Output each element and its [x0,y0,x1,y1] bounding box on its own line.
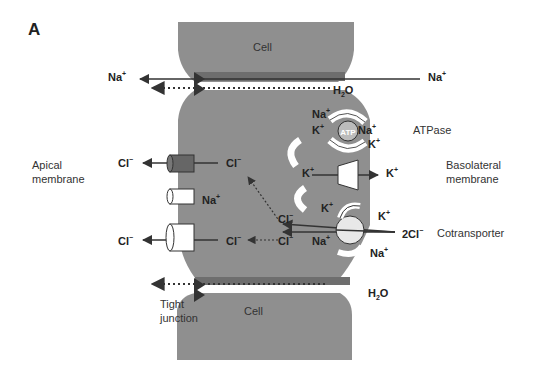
cl-cotrans-2: Cl− [278,234,293,247]
na-channel-label: Na+ [202,193,220,206]
atpase-k-in: K+ [312,123,324,136]
cl-channel-white-icon [166,224,194,251]
cl-cotrans-1: Cl− [278,212,293,225]
atp-label: ATP [340,128,356,137]
cl-apical-in-1: Cl− [226,156,241,169]
atpase-na-in: Na+ [312,107,330,120]
h2o-top-label: H2O [333,84,353,98]
cl-apical-out-2: Cl− [118,234,133,247]
epithelial-transport-diagram: ATP [0,0,536,379]
cotrans-na-out: Na+ [370,246,388,259]
tight-junction-label: Tightjunction [160,297,198,325]
cl-channel-dark-icon [167,155,194,172]
basolateral-membrane-label: Basolateralmembrane [446,158,501,186]
apical-membrane-label: Apicalmembrane [32,158,85,186]
cotrans-na-in: Na+ [312,234,330,247]
top-cell-label: Cell [253,41,272,53]
bottom-cell-label: Cell [244,305,263,317]
cotrans-2cl: 2Cl− [402,227,423,240]
atpase-na-out: Na+ [358,123,376,136]
cl-apical-in-2: Cl− [226,234,241,247]
k-channel-in: K+ [302,166,314,179]
panel-label: A [28,20,40,40]
k-recycle: K+ [321,201,333,214]
atpase-label: ATPase [413,124,451,136]
cotransporter-label: Cotransporter [437,227,504,239]
k-channel-out: K+ [386,166,398,179]
na-top-right-label: Na+ [428,70,446,83]
cl-apical-out-1: Cl− [118,156,133,169]
bottom-cell [177,293,352,360]
atpase-k-out: K+ [368,137,380,150]
na-channel-icon [167,189,194,204]
h2o-bottom-label: H2O [368,287,388,301]
cotrans-k-out: K+ [378,209,390,222]
na-top-left-label: Na+ [108,70,126,83]
